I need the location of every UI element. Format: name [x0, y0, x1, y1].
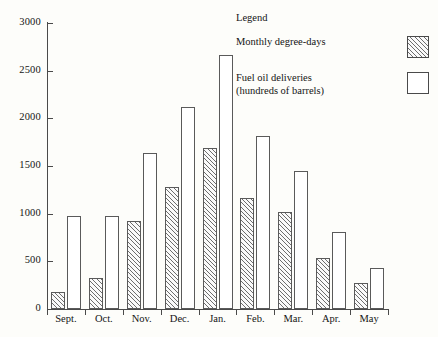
x-axis-line: [47, 309, 389, 310]
x-tick-label: Sept.: [47, 313, 85, 324]
x-tick-label: Mar.: [274, 313, 312, 324]
legend-title: Legend: [236, 12, 268, 23]
bar-degree-days: [354, 283, 368, 309]
y-tick-label: 2000: [19, 111, 41, 122]
y-tick-label: 1500: [19, 159, 41, 170]
bar-degree-days: [165, 187, 179, 309]
x-tick: [388, 310, 389, 315]
bar-fuel-oil: [67, 216, 81, 309]
bar-degree-days: [89, 278, 103, 309]
y-tick: [48, 309, 53, 310]
x-tick-label: Oct.: [85, 313, 123, 324]
x-tick-label: Dec.: [161, 313, 199, 324]
open-square-icon: [407, 72, 429, 94]
y-tick-label: 500: [25, 254, 41, 265]
bar-fuel-oil: [294, 171, 308, 309]
y-tick-label: 0: [36, 302, 41, 313]
x-tick-label: May: [350, 313, 388, 324]
x-tick-label: Nov.: [123, 313, 161, 324]
x-tick-label: Apr.: [312, 313, 350, 324]
bar-degree-days: [51, 292, 65, 309]
bar-fuel-oil: [370, 268, 384, 309]
bar-fuel-oil: [219, 55, 233, 309]
bar-chart: 050010001500200025003000 Sept.Oct.Nov.De…: [0, 0, 438, 337]
hatched-square-icon: [407, 36, 429, 58]
x-tick-label: Jan.: [199, 313, 237, 324]
legend-entry-label: Monthly degree-days: [236, 36, 326, 49]
bar-degree-days: [278, 212, 292, 309]
y-tick-label: 1000: [19, 207, 41, 218]
legend-entry-degree-days: Monthly degree-days: [236, 36, 432, 66]
legend-entry-fuel-oil: Fuel oil deliveries (hundreds of barrels…: [236, 72, 432, 102]
bar-fuel-oil: [105, 216, 119, 309]
x-tick-label: Feb.: [236, 313, 274, 324]
bar-fuel-oil: [143, 153, 157, 309]
bar-fuel-oil: [332, 232, 346, 309]
bar-fuel-oil: [256, 136, 270, 310]
bar-degree-days: [316, 258, 330, 309]
bar-degree-days: [127, 221, 141, 309]
legend-entry-label: Fuel oil deliveries (hundreds of barrels…: [236, 72, 324, 97]
bar-fuel-oil: [181, 107, 195, 309]
y-tick-label: 3000: [19, 16, 41, 27]
y-tick-label: 2500: [19, 64, 41, 75]
bar-degree-days: [240, 198, 254, 309]
bar-degree-days: [203, 148, 217, 309]
